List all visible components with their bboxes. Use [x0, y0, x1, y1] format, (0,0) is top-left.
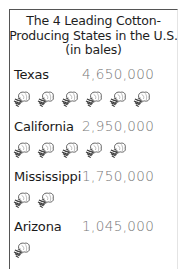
cotton-boll-icon — [37, 191, 56, 209]
cotton-boll-icon — [13, 191, 32, 209]
cotton-boll-icon — [13, 141, 32, 159]
row-label-mississippi: Mississippi — [14, 169, 81, 184]
cotton-boll-icon — [13, 241, 32, 259]
cotton-boll-icon — [37, 90, 56, 108]
icon-row-arizona — [13, 241, 32, 259]
cotton-boll-icon — [133, 90, 152, 108]
cotton-boll-icon — [109, 141, 128, 159]
cotton-boll-icon — [85, 141, 104, 159]
icon-row-texas — [13, 90, 152, 108]
row-value-california: 2,950,000 — [82, 118, 154, 134]
title-line-2: Producing States in the U.S. — [9, 29, 178, 44]
cotton-boll-icon — [109, 90, 128, 108]
chart-title: The 4 Leading Cotton- Producing States i… — [9, 14, 178, 58]
row-label-california: California — [14, 119, 74, 134]
row-value-mississippi: 1,750,000 — [82, 168, 154, 184]
icon-row-california — [13, 141, 128, 159]
row-label-arizona: Arizona — [14, 219, 61, 234]
title-line-1: The 4 Leading Cotton- — [9, 14, 178, 29]
cotton-boll-icon — [61, 141, 80, 159]
row-value-texas: 4,650,000 — [82, 66, 154, 82]
row-label-texas: Texas — [14, 67, 49, 82]
cotton-boll-icon — [85, 90, 104, 108]
cotton-boll-icon — [13, 90, 32, 108]
icon-row-mississippi — [13, 191, 56, 209]
title-line-3: (in bales) — [9, 43, 178, 58]
row-value-arizona: 1,045,000 — [82, 218, 154, 234]
cotton-boll-icon — [37, 141, 56, 159]
cotton-boll-icon — [61, 90, 80, 108]
